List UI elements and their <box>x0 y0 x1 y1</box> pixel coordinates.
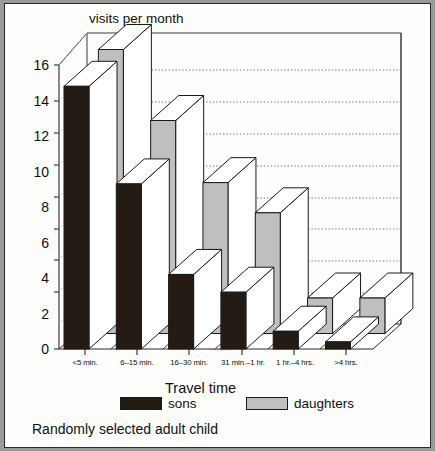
y-tick-label-4: 4 <box>25 271 49 285</box>
x-axis-title: Travel time <box>165 381 236 396</box>
y-tick-label-14: 14 <box>25 94 49 108</box>
bar-sons-1 <box>116 159 169 349</box>
chart-figure: visits per month 0246810121416 <5 min.6–… <box>4 3 431 448</box>
figure-caption: Randomly selected adult child <box>32 422 218 436</box>
legend-swatch-sons <box>120 397 162 410</box>
legend-label-sons: sons <box>168 396 197 411</box>
y-tick-label-2: 2 <box>25 307 49 321</box>
chart-legend: sons daughters <box>5 396 432 416</box>
y-tick-label-0: 0 <box>25 342 49 356</box>
y-tick-label-8: 8 <box>25 200 49 214</box>
y-tick-label-12: 12 <box>25 129 49 143</box>
bar-sons-0 <box>64 61 117 349</box>
legend-label-daughters: daughters <box>294 396 354 411</box>
y-tick-label-6: 6 <box>25 236 49 250</box>
y-tick-label-10: 10 <box>25 165 49 179</box>
chart-title: visits per month <box>89 12 184 26</box>
y-tick-label-16: 16 <box>25 58 49 72</box>
legend-swatch-daughters <box>246 397 288 410</box>
x-tick-label-5: >4 hrs. <box>314 359 378 367</box>
